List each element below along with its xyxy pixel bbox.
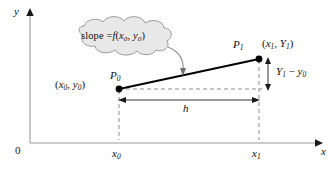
callout-label: slope =f(x0, y0) <box>81 31 145 43</box>
y-axis-label: y <box>14 6 19 17</box>
callout-word-slope: slope <box>81 30 106 41</box>
figure-canvas <box>0 0 335 169</box>
p1-base: P <box>233 38 240 50</box>
x-tick-label-x1: x1 <box>252 148 261 160</box>
point-marker-p1 <box>256 56 263 63</box>
p0-base: P <box>110 69 117 81</box>
point-label-p1: P1 <box>233 39 243 51</box>
callout-paren-close: ) <box>141 30 145 41</box>
callout-pointer <box>168 47 186 76</box>
secant-slope-figure: y x 0 x0 x1 P0 P1 (x0, y0) (x1, Y1) h Y1… <box>0 0 335 169</box>
p1-paren-close: ) <box>290 37 294 49</box>
secant-line <box>119 59 259 89</box>
y-axis-arrowhead <box>26 8 33 16</box>
x-axis-label: x <box>321 146 326 157</box>
origin-label: 0 <box>15 145 21 156</box>
p0-subscript: 0 <box>117 74 121 83</box>
point-label-p0: P0 <box>110 70 120 82</box>
dimension-arrow-h <box>118 97 260 103</box>
dy-arrowhead-top <box>265 57 271 64</box>
dimension-arrow-dy <box>265 57 271 91</box>
point-coords-p1: (x1, Y1) <box>262 38 293 50</box>
point-coords-p0: (x0, y0) <box>55 79 85 91</box>
dy-arrowhead-bottom <box>265 84 271 91</box>
p0-paren-close: ) <box>81 78 85 90</box>
x-tick-label-x0: x0 <box>112 148 121 160</box>
dimension-label-h: h <box>183 103 189 114</box>
dy-y0-sub: 0 <box>302 70 306 79</box>
point-marker-p0 <box>116 86 123 93</box>
dimension-label-dy: Y1 − y0 <box>276 66 306 78</box>
p1-subscript: 1 <box>240 43 244 52</box>
x1-subscript: 1 <box>257 152 261 161</box>
callout-pointer-curve <box>168 47 183 70</box>
dy-minus: − <box>286 65 298 77</box>
x0-subscript: 0 <box>117 152 121 161</box>
